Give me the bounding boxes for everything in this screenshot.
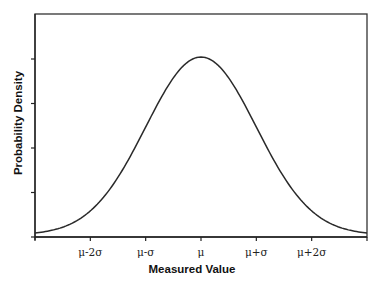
plot-frame xyxy=(35,14,367,237)
normal-distribution-chart: μ-2σμ-σμμ+σμ+2σ Measured Value Probabili… xyxy=(0,0,379,286)
y-axis-title: Probability Density xyxy=(12,70,24,175)
x-tick-label: μ-2σ xyxy=(78,246,102,258)
x-tick-label: μ+2σ xyxy=(297,246,326,258)
x-tick-label: μ-σ xyxy=(137,246,155,258)
x-tick-label: μ xyxy=(198,246,205,258)
density-curve xyxy=(35,57,367,233)
x-axis-title: Measured Value xyxy=(149,263,236,275)
x-tick-label: μ+σ xyxy=(245,246,268,258)
x-axis-tick-labels: μ-2σμ-σμμ+σμ+2σ xyxy=(78,246,326,258)
